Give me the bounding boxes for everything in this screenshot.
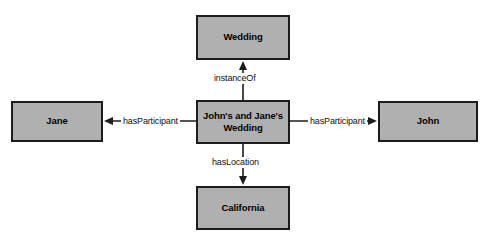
edge-label-haslocation: hasLocation [210,157,261,168]
semantic-network-diagram: Wedding John's and Jane's Wedding Jane J… [0,0,489,240]
node-jane-label: Jane [43,115,70,127]
node-johns-and-janes-wedding[interactable]: John's and Jane's Wedding [196,100,290,144]
edge-label-instanceof: instanceOf [212,73,258,84]
node-wedding-label: Wedding [220,31,265,43]
node-instance-line1: John's and Jane's [203,110,283,121]
edge-label-hasparticipant-left: hasParticipant [121,116,180,127]
node-instance-line2: Wedding [223,122,262,133]
node-california[interactable]: California [196,186,290,230]
edge-label-hasparticipant-right: hasParticipant [308,116,367,127]
node-johns-and-janes-wedding-label: John's and Jane's Wedding [200,110,286,134]
node-california-label: California [219,202,268,214]
node-john[interactable]: John [378,101,478,142]
node-wedding[interactable]: Wedding [196,15,290,60]
node-jane[interactable]: Jane [11,101,103,142]
node-john-label: John [414,115,442,127]
